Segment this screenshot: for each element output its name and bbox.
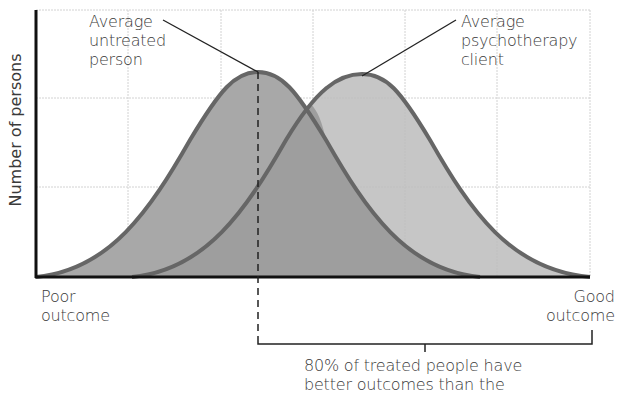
bracket-annotation: 80% of treated people have better outcom… (304, 356, 522, 394)
annotation-line: psychotherapy (461, 31, 577, 50)
untreated-leader (163, 20, 258, 72)
label-line: Good (546, 287, 615, 306)
label-line: outcome (41, 306, 110, 325)
annotation-line: person (89, 50, 166, 69)
poor-outcome-label: Poor outcome (41, 287, 110, 325)
treated-leader (362, 20, 456, 76)
annotation-line: better outcomes than the (304, 375, 522, 394)
untreated-annotation: Average untreated person (89, 12, 166, 69)
y-axis-label: Number of persons (6, 77, 25, 207)
annotation-line: Average (89, 12, 166, 31)
annotation-line: client (461, 50, 577, 69)
label-line: outcome (546, 306, 615, 325)
annotation-line: 80% of treated people have (304, 356, 522, 375)
good-outcome-label: Good outcome (546, 287, 615, 325)
annotation-line: Average (461, 12, 577, 31)
label-line: Poor (41, 287, 110, 306)
treated-annotation: Average psychotherapy client (461, 12, 577, 69)
annotation-line: untreated (89, 31, 166, 50)
bracket (258, 330, 592, 344)
